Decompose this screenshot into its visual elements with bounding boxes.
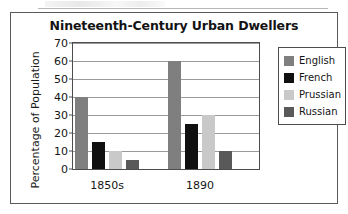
gridline bbox=[73, 97, 259, 98]
y-tick-label: 50 bbox=[54, 73, 68, 86]
gridline bbox=[73, 61, 259, 62]
y-tick-label: 70 bbox=[54, 37, 68, 50]
y-tick-label: 60 bbox=[54, 55, 68, 68]
x-tick-label: 1850s bbox=[90, 179, 124, 192]
y-tick-mark bbox=[69, 97, 73, 98]
legend-label: French bbox=[299, 73, 332, 83]
y-tick-label: 0 bbox=[61, 163, 68, 176]
y-tick-mark bbox=[69, 169, 73, 170]
plot-area: 0102030405060701850s1890 bbox=[72, 42, 260, 170]
y-tick-label: 20 bbox=[54, 127, 68, 140]
bar-french-1890 bbox=[185, 124, 198, 169]
gridline bbox=[73, 43, 259, 44]
legend-swatch-russian-icon bbox=[284, 107, 294, 117]
y-tick-label: 10 bbox=[54, 145, 68, 158]
bar-english-1890 bbox=[168, 61, 181, 169]
bar-russian-1890 bbox=[219, 151, 232, 169]
gridline bbox=[73, 133, 259, 134]
legend-item-russian[interactable]: Russian bbox=[284, 103, 345, 120]
legend-label: English bbox=[299, 56, 335, 66]
legend-swatch-prussian-icon bbox=[284, 90, 294, 100]
legend-swatch-english-icon bbox=[284, 56, 294, 66]
y-tick-mark bbox=[69, 79, 73, 80]
legend-item-prussian[interactable]: Prussian bbox=[284, 86, 345, 103]
y-tick-mark bbox=[69, 61, 73, 62]
chart-frame: Nineteenth-Century Urban Dwellers Percen… bbox=[10, 12, 338, 204]
chart-title: Nineteenth-Century Urban Dwellers bbox=[11, 18, 337, 33]
y-tick-mark bbox=[69, 43, 73, 44]
gridline bbox=[73, 115, 259, 116]
legend-item-french[interactable]: French bbox=[284, 69, 345, 86]
chart-legend: EnglishFrenchPrussianRussian bbox=[278, 47, 346, 125]
gridline bbox=[73, 79, 259, 80]
bar-english-1850s bbox=[75, 97, 88, 169]
bar-prussian-1850s bbox=[109, 151, 122, 169]
bar-russian-1850s bbox=[126, 160, 139, 169]
scan-artifact bbox=[45, 1, 165, 7]
y-tick-label: 30 bbox=[54, 109, 68, 122]
chart-figure: Nineteenth-Century Urban Dwellers Percen… bbox=[0, 0, 348, 214]
legend-swatch-french-icon bbox=[284, 73, 294, 83]
x-tick-label: 1890 bbox=[186, 179, 214, 192]
legend-label: Prussian bbox=[299, 90, 341, 100]
scan-rule-divider bbox=[38, 8, 328, 9]
bar-french-1850s bbox=[92, 142, 105, 169]
y-axis-title: Percentage of Population bbox=[29, 59, 42, 189]
y-tick-mark bbox=[69, 151, 73, 152]
y-tick-mark bbox=[69, 133, 73, 134]
legend-label: Russian bbox=[299, 107, 338, 117]
y-tick-label: 40 bbox=[54, 91, 68, 104]
legend-item-english[interactable]: English bbox=[284, 52, 345, 69]
bar-prussian-1890 bbox=[202, 115, 215, 169]
y-tick-mark bbox=[69, 115, 73, 116]
